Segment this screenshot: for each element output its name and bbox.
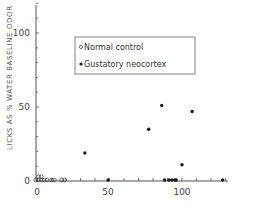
- data-points: [34, 104, 225, 182]
- gustatory-neocortex-point: [175, 178, 178, 181]
- gustatory-neocortex-point: [160, 104, 163, 107]
- gustatory-neocortex-point: [106, 178, 109, 181]
- gustatory-neocortex-point: [221, 178, 224, 181]
- legend-label-gustatory-neocortex: Gustatory neocortex: [84, 60, 166, 69]
- gustatory-neocortex-point: [180, 163, 183, 166]
- x-tick-label-0: 0: [34, 187, 40, 197]
- gustatory-neocortex-point: [83, 151, 86, 154]
- x-tick-label-50: 50: [102, 187, 114, 197]
- y-tick-label-50: 50: [19, 102, 31, 112]
- y-tick-label-100: 100: [13, 28, 30, 38]
- gustatory-neocortex-point: [190, 110, 193, 113]
- legend-label-normal-control: Normal control: [84, 43, 143, 52]
- gustatory-neocortex-point: [147, 128, 150, 131]
- gustatory-neocortex-point: [170, 178, 173, 181]
- legend: Normal control Gustatory neocortex: [75, 37, 195, 74]
- filled-circle-marker-icon: [79, 62, 82, 65]
- gustatory-neocortex-point: [163, 178, 166, 181]
- y-tick-label-0: 0: [24, 176, 30, 186]
- scatter-chart: LICKS AS % WATER BASELINE ODOR 100 50 0 …: [0, 0, 253, 211]
- x-tick-label-100: 100: [173, 187, 190, 197]
- gustatory-neocortex-point: [167, 178, 170, 181]
